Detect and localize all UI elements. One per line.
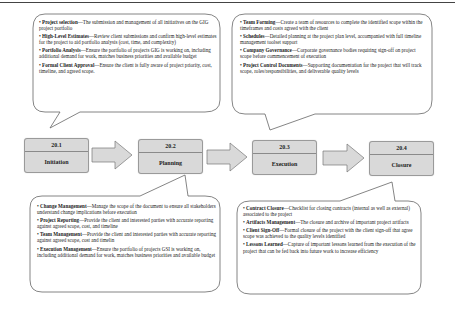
- callout-planning: • Change Management—Manage the scope of …: [37, 203, 217, 260]
- callout-item: • Contract Closure—Checklist for closing…: [243, 205, 417, 217]
- callout-item: • Team Management—Provide the client and…: [37, 231, 217, 243]
- callout-item: • Project selection—The submission and m…: [39, 19, 217, 31]
- callout-item: • Change Management—Manage the scope of …: [37, 203, 217, 215]
- callout-execution: • Team Forming—Create a team of resource…: [240, 19, 428, 76]
- stage-name: Closure: [370, 155, 433, 175]
- stage-number: 20.2: [139, 140, 202, 153]
- callout-item: • Company Governance—Corporate governanc…: [240, 47, 428, 59]
- stage-name: Initiation: [25, 152, 88, 172]
- callout-item: • Artifacts Management—The closure and a…: [243, 219, 417, 225]
- callout-item: • High-Level Estimates—Review client sub…: [39, 33, 217, 45]
- top-rule: [0, 2, 455, 3]
- callout-item: • Project Control Documents—Supporting d…: [240, 62, 428, 74]
- callout-item: • Project Reporting—Provide the client a…: [37, 217, 217, 229]
- callout-item: • Team Forming—Create a team of resource…: [240, 19, 428, 31]
- stage-planning: 20.2 Planning: [138, 139, 203, 174]
- stage-initiation: 20.1 Initiation: [24, 138, 89, 173]
- arrow-icon: [207, 143, 247, 171]
- stage-closure: 20.4 Closure: [369, 141, 434, 176]
- callout-item: • Lessons Learned—Capture of important l…: [243, 241, 417, 253]
- callout-item: • Schedules—Detailed planning at the pro…: [240, 33, 428, 45]
- stage-number: 20.4: [370, 142, 433, 155]
- stage-number: 20.3: [253, 141, 316, 154]
- stage-number: 20.1: [25, 139, 88, 152]
- callout-item: • Portfolio Analysis—Ensure the portfoli…: [39, 47, 217, 59]
- callout-closure: • Contract Closure—Checklist for closing…: [243, 205, 417, 256]
- callout-item: • Execution Management—Ensure the portfo…: [37, 246, 217, 258]
- stage-name: Planning: [139, 153, 202, 173]
- callout-item: • Formal Client Approval—Ensure the clie…: [39, 62, 217, 74]
- arrow-icon: [92, 141, 132, 169]
- callout-initiation: • Project selection—The submission and m…: [39, 19, 217, 76]
- callout-item: • Client Sign-Off—Formal closure of the …: [243, 227, 417, 239]
- stage-execution: 20.3 Execution: [252, 140, 317, 175]
- stage-name: Execution: [253, 154, 316, 174]
- arrow-icon: [323, 144, 364, 172]
